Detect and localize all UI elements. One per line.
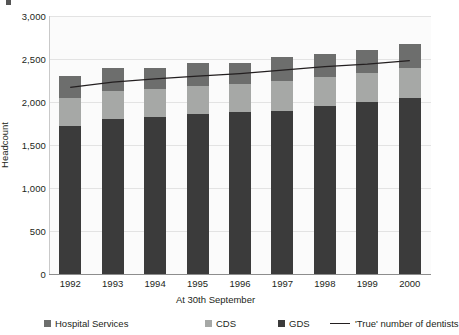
legend-swatch xyxy=(44,320,51,327)
y-tick-0: 0 xyxy=(2,269,46,280)
chart-legend: Hospital ServicesCDSGDS'True' number of … xyxy=(0,316,431,330)
legend-label: 'True' number of dentists xyxy=(355,318,459,329)
legend-item-cds[interactable]: CDS xyxy=(205,316,236,330)
x-tick-2000: 2000 xyxy=(387,278,433,289)
legend-label: GDS xyxy=(289,318,310,329)
y-tick-2500: 2,500 xyxy=(2,54,46,65)
legend-swatch xyxy=(278,320,285,327)
legend-item-gds[interactable]: GDS xyxy=(278,316,310,330)
x-tick-1997: 1997 xyxy=(259,278,305,289)
y-tick-500: 500 xyxy=(2,226,46,237)
legend-swatch xyxy=(205,320,212,327)
y-axis-line xyxy=(49,16,50,275)
y-axis-label: Headcount xyxy=(0,105,10,185)
legend-item-true-number-of-dentists[interactable]: 'True' number of dentists xyxy=(330,316,459,330)
x-tick-1992: 1992 xyxy=(47,278,93,289)
x-tick-1999: 1999 xyxy=(344,278,390,289)
trendline-path xyxy=(70,61,410,88)
legend-item-hospital-services[interactable]: Hospital Services xyxy=(44,316,128,330)
legend-label: Hospital Services xyxy=(55,318,128,329)
x-tick-1995: 1995 xyxy=(175,278,221,289)
x-tick-1994: 1994 xyxy=(132,278,178,289)
legend-label: CDS xyxy=(216,318,236,329)
x-axis-line xyxy=(49,274,431,275)
y-tick-3000: 3,000 xyxy=(2,11,46,22)
x-tick-1998: 1998 xyxy=(302,278,348,289)
x-tick-1996: 1996 xyxy=(217,278,263,289)
true-number-of-dentists-line xyxy=(49,16,431,274)
legend-line-marker xyxy=(330,323,350,324)
plot-area xyxy=(49,16,431,274)
x-axis-label: At 30th September xyxy=(0,294,431,305)
x-tick-1993: 1993 xyxy=(90,278,136,289)
